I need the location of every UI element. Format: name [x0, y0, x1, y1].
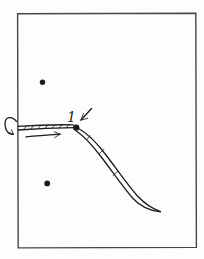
- point-1-dot: [73, 124, 79, 130]
- point-1-label: 1: [67, 109, 76, 125]
- lower-dot: [44, 181, 50, 187]
- upper-dot: [40, 80, 45, 85]
- sketch-canvas: 1: [0, 0, 204, 259]
- hand-drawn-sketch: 1: [0, 0, 204, 259]
